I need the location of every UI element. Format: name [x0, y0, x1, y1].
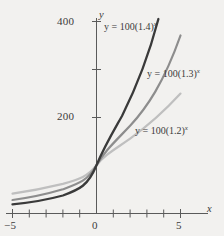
- curve-label-1-4: y = 100(1.4)x: [104, 22, 157, 32]
- y-tick-label-400: 400: [57, 16, 74, 27]
- x-tick-label-0: 0: [92, 220, 98, 231]
- curve-label-1-2: y = 100(1.2)x: [135, 126, 188, 136]
- plot-area: [0, 0, 224, 236]
- curve-label-1-3: y = 100(1.3)x: [147, 69, 200, 79]
- curve-label-1-4-text: y = 100(1.4): [104, 21, 154, 32]
- y-tick-label-200: 200: [57, 111, 74, 122]
- curve-label-1-2-text: y = 100(1.2): [135, 125, 185, 136]
- curve-label-1-3-exponent: x: [197, 67, 200, 75]
- curve-label-1-2-exponent: x: [185, 124, 188, 132]
- x-tick-label-minus-5: −5: [4, 220, 16, 231]
- curve-label-1-4-exponent: x: [154, 20, 157, 28]
- curve-label-1-3-text: y = 100(1.3): [147, 68, 197, 79]
- x-tick-label-5: 5: [176, 220, 182, 231]
- exponential-growth-chart: 400 200 −5 0 5 y x y = 100(1.4)x y = 100…: [0, 0, 224, 236]
- y-axis-label: y: [99, 10, 104, 21]
- x-axis-label: x: [207, 204, 212, 215]
